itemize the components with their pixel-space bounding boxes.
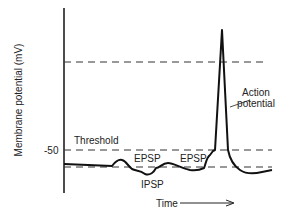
epsp-label-2: EPSP	[180, 153, 207, 164]
epsp-label-1: EPSP	[134, 153, 161, 164]
y-tick-minus50: -50	[44, 145, 59, 156]
action-label-line2: potential	[237, 98, 275, 109]
y-axis-label: Membrane potential (mV)	[13, 44, 24, 157]
threshold-label: Threshold	[74, 135, 118, 146]
ipsp-label: IPSP	[141, 179, 164, 190]
x-axis-label: Time	[156, 198, 178, 209]
action-label-line1: Action	[242, 87, 270, 98]
membrane-potential-diagram: Membrane potential (mV) -50 Threshold EP…	[0, 0, 298, 215]
